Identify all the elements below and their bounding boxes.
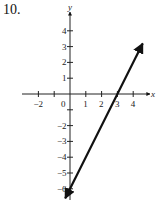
y-tick-label: −6 <box>57 184 67 194</box>
x-tick-label: 3 <box>115 99 120 109</box>
origin-label: 0 <box>61 99 66 109</box>
x-tick-label: −2 <box>33 99 43 109</box>
y-tick-label: 2 <box>62 57 67 67</box>
y-tick-label: −2 <box>57 121 67 131</box>
x-tick-label: 1 <box>83 99 88 109</box>
y-tick-label: −5 <box>57 168 67 178</box>
y-tick-label: 3 <box>62 42 67 52</box>
x-tick-label: 2 <box>99 99 104 109</box>
x-tick-label: 4 <box>131 99 136 109</box>
y-axis-label: y <box>67 2 72 12</box>
y-tick-label: −3 <box>57 136 67 146</box>
y-tick-label: −4 <box>57 152 67 162</box>
y-tick-label: 4 <box>62 26 67 36</box>
x-axis-label: x <box>150 89 155 99</box>
line-series <box>65 43 142 198</box>
y-tick-label: 1 <box>62 73 67 83</box>
coordinate-plot: xy−212340−6−5−4−3−21234 <box>0 0 157 204</box>
